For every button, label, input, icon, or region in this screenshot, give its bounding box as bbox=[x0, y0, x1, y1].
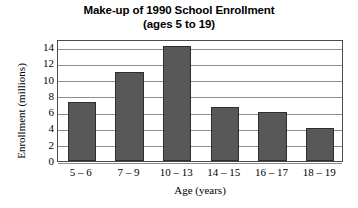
y-axis-tick-label: 0 bbox=[14, 156, 54, 167]
chart-title: Make-up of 1990 School Enrollment (ages … bbox=[0, 3, 358, 31]
y-axis-tick-label: 14 bbox=[14, 42, 54, 53]
bar bbox=[115, 72, 144, 161]
chart-title-line1: Make-up of 1990 School Enrollment bbox=[84, 4, 275, 16]
y-axis-tick-labels: 02468101214 bbox=[9, 40, 54, 162]
x-axis-tick-label: 14 – 15 bbox=[200, 166, 248, 178]
y-axis-tick-label: 2 bbox=[14, 140, 54, 151]
gridline bbox=[58, 163, 342, 164]
plot-area bbox=[57, 40, 343, 162]
bar bbox=[258, 112, 287, 161]
y-axis-tick-label: 6 bbox=[14, 107, 54, 118]
bars bbox=[58, 41, 342, 161]
x-axis-tick-labels: 5 – 67 – 910 – 1314 – 1516 – 1718 – 19 bbox=[57, 166, 343, 180]
y-axis-tick-label: 12 bbox=[14, 58, 54, 69]
x-axis-tick-label: 18 – 19 bbox=[295, 166, 343, 178]
y-axis-tick-label: 8 bbox=[14, 91, 54, 102]
y-axis-tick-label: 4 bbox=[14, 123, 54, 134]
x-axis-tick-label: 5 – 6 bbox=[57, 166, 105, 178]
y-axis-tick-label: 10 bbox=[14, 75, 54, 86]
bar bbox=[68, 102, 97, 161]
x-axis-title: Age (years) bbox=[57, 184, 343, 196]
bar bbox=[306, 128, 335, 161]
chart-screenshot: Make-up of 1990 School Enrollment (ages … bbox=[0, 0, 358, 208]
x-axis-tick-label: 16 – 17 bbox=[248, 166, 296, 178]
bar bbox=[163, 46, 192, 161]
x-axis-tick-label: 7 – 9 bbox=[105, 166, 153, 178]
x-axis-tick-label: 10 – 13 bbox=[152, 166, 200, 178]
chart-title-line2: (ages 5 to 19) bbox=[0, 17, 358, 31]
bar bbox=[211, 107, 240, 161]
